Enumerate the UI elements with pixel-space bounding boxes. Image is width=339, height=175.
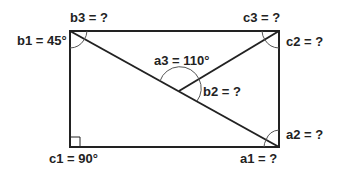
angle-arc-b2: [197, 79, 201, 101]
label-b3: b3 = ?: [70, 10, 108, 25]
label-a3: a3 = 110°: [154, 53, 209, 68]
label-b1: b1 = 45°: [17, 33, 67, 48]
angle-arc-c2: [265, 40, 279, 48]
angle-arc-b1: [70, 40, 84, 48]
main-diagonal: [70, 31, 279, 147]
geometry-diagram: b3 = ? b1 = 45° c3 = ? c2 = ? a3 = 110° …: [0, 0, 339, 175]
label-c2: c2 = ?: [286, 34, 323, 49]
label-b2: b2 = ?: [203, 84, 241, 99]
label-a1: a1 = ?: [240, 151, 277, 166]
right-angle-marker: [70, 137, 80, 147]
angle-arc-c3: [262, 31, 265, 40]
label-c1: c1 = 90°: [49, 151, 98, 166]
angle-arc-a2: [266, 130, 279, 140]
label-a2: a2 = ?: [286, 127, 323, 142]
label-c3: c3 = ?: [243, 10, 280, 25]
angle-arc-a1: [264, 140, 266, 147]
angle-arc-a3: [160, 67, 199, 81]
